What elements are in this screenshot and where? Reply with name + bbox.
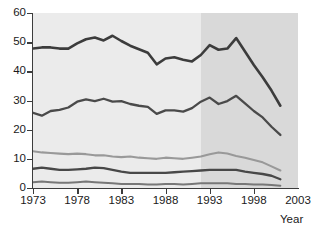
line-series-5	[33, 182, 280, 186]
x-tick-label: 2003	[278, 194, 318, 206]
y-tick-label: 30	[2, 95, 26, 106]
x-axis-title: Year	[280, 213, 303, 225]
x-tick-label: 1983	[101, 194, 141, 206]
y-tick	[27, 71, 33, 72]
line-series-2	[33, 96, 280, 135]
x-tick-label: 1973	[13, 194, 53, 206]
y-tick-label: 50	[2, 36, 26, 47]
x-tick-label: 1998	[234, 194, 274, 206]
y-tick-label: 20	[2, 124, 26, 135]
y-tick-label: 60	[2, 7, 26, 18]
plot-area	[33, 13, 298, 188]
series-lines	[33, 13, 298, 188]
y-tick	[27, 159, 33, 160]
y-tick	[27, 42, 33, 43]
line-series-3	[33, 151, 280, 170]
y-tick	[27, 130, 33, 131]
y-tick-label: 40	[2, 65, 26, 76]
x-tick-label: 1978	[57, 194, 97, 206]
chart-figure: 0102030405060 19731978198319881993199820…	[0, 0, 322, 236]
x-tick-label: 1988	[146, 194, 186, 206]
y-tick	[27, 101, 33, 102]
y-tick	[27, 13, 33, 14]
y-tick-label: 10	[2, 153, 26, 164]
x-tick-label: 1993	[190, 194, 230, 206]
line-series-4	[33, 168, 280, 180]
line-series-1	[33, 36, 280, 106]
y-tick-label: 0	[2, 182, 26, 193]
